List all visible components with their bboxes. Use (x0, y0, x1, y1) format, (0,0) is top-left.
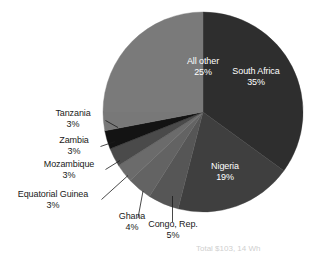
slice-label-tanzania-name: Tanzania (44, 108, 102, 119)
slice-label-congo: Congo, Rep. 5% (140, 219, 206, 240)
leader-line-equatorial-guinea (102, 176, 129, 200)
leader-line-mozambique (106, 161, 121, 170)
slice-label-mozambique-name: Mozambique (34, 159, 104, 170)
slice-label-zambia-name: Zambia (49, 135, 99, 146)
slice-label-equatorial-guinea: Equatorial Guinea 3% (6, 189, 100, 210)
slice-label-south-africa-name: South Africa (218, 66, 294, 77)
slice-label-nigeria-value: 19% (196, 172, 254, 183)
slice-label-mozambique-value: 3% (34, 170, 104, 181)
slice-label-zambia-value: 3% (49, 146, 99, 157)
slice-label-congo-name: Congo, Rep. (140, 219, 206, 230)
slice-label-all-other-name: All other (168, 56, 238, 67)
slice-label-nigeria: Nigeria 19% (196, 161, 254, 182)
slice-label-mozambique: Mozambique 3% (34, 159, 104, 180)
slice-label-equatorial-guinea-value: 3% (6, 200, 100, 211)
slice-label-equatorial-guinea-name: Equatorial Guinea (6, 189, 100, 200)
slice-label-south-africa-value: 35% (218, 77, 294, 88)
chart-footnote: Total $103, 14 Wh (196, 244, 316, 254)
slice-label-tanzania-value: 3% (44, 119, 102, 130)
slice-label-south-africa: South Africa 35% (218, 66, 294, 87)
pie-chart: All other 25% South Africa 35% Nigeria 1… (0, 0, 316, 254)
pie-slice-group (103, 12, 303, 212)
slice-label-tanzania: Tanzania 3% (44, 108, 102, 129)
slice-label-congo-value: 5% (140, 230, 206, 241)
slice-label-zambia: Zambia 3% (49, 135, 99, 156)
slice-label-nigeria-name: Nigeria (196, 161, 254, 172)
